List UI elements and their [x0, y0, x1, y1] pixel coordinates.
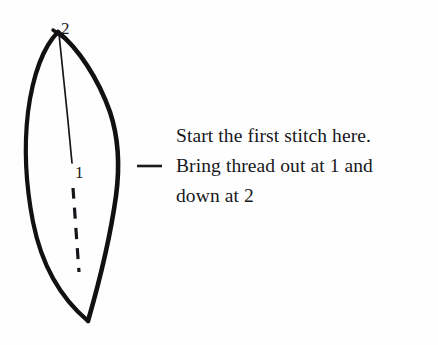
caption-block: Start the first stitch here. Bring threa…: [176, 121, 426, 211]
point-label-2: 2: [61, 20, 70, 37]
solid-thread-line: [59, 34, 72, 163]
caption-line-2: Bring thread out at 1 and: [176, 151, 426, 181]
petal-right-edge: [58, 32, 118, 321]
figure-root: 2 1 Start the first stitch here. Bring t…: [0, 0, 438, 345]
caption-line-1: Start the first stitch here.: [176, 121, 426, 151]
caption-line-3: down at 2: [176, 181, 426, 211]
point-label-1: 1: [75, 164, 84, 181]
dashed-thread-path: [73, 188, 79, 272]
